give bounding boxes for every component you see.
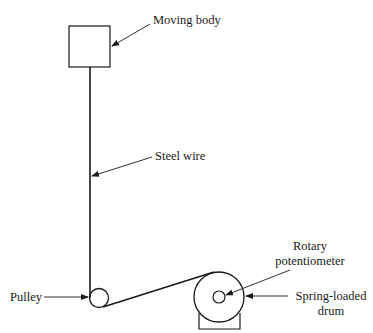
drum-label-line2: drum [318,304,345,318]
drum-base [199,313,240,329]
potentiometer-circle [213,291,225,303]
pulley-circle [90,289,109,308]
moving-body-label: Moving body [153,13,221,27]
steel-wire-diagonal [103,272,214,307]
potentiometer-label-line1: Rotary [293,239,328,253]
drum-circle [194,272,244,322]
potentiometer-label-line2: potentiometer [275,254,345,268]
displacement-sensor-diagram: Moving body Steel wire Pulley Rotary pot… [0,0,373,333]
steel-wire-arrow [92,157,152,176]
steel-wire-label: Steel wire [155,149,206,163]
pulley-label: Pulley [10,290,43,304]
potentiometer-arrow [226,270,290,295]
moving-body-arrow [112,24,150,46]
drum-label-line1: Spring-loaded [296,289,368,303]
moving-body-box [69,26,110,67]
